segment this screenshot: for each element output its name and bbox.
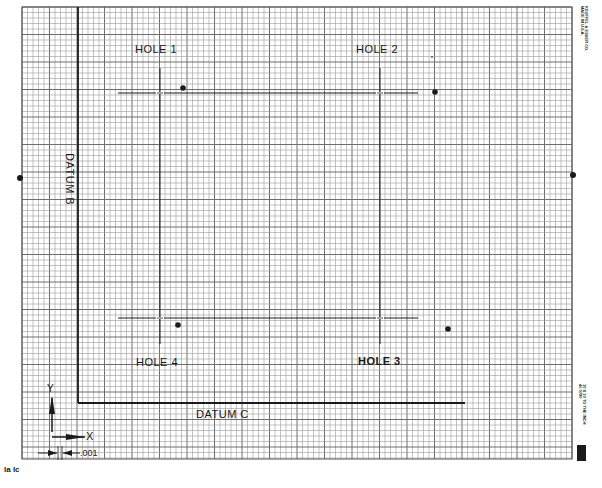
axis-key — [38, 396, 85, 460]
hole-2-label: HOLE 2 — [356, 44, 398, 55]
paper-catalog-number: 46 0780 — [577, 384, 581, 424]
grid-lines — [22, 7, 572, 459]
footer-marks: la lc — [4, 465, 20, 474]
hole-location-dot — [175, 322, 181, 328]
scale-arrow-right-icon — [63, 450, 72, 456]
graph-paper-diagram — [0, 0, 602, 488]
vendor-text-bottom: 10 X 10 TO THE INCH 46 0780 — [577, 384, 586, 424]
vendor-origin: MADE IN U.S.A. — [579, 6, 583, 51]
reference-dot — [570, 172, 576, 178]
hole-location-dot — [445, 326, 451, 332]
vendor-logo-icon — [577, 445, 586, 461]
hole-4-label: HOLE 4 — [136, 357, 178, 368]
hole-3-label: HOLE 3 — [358, 356, 401, 367]
x-axis-label: X — [86, 431, 94, 442]
scale-label: .001 — [80, 448, 98, 458]
hole-location-dot — [180, 85, 186, 91]
x-arrow-icon — [66, 434, 85, 440]
y-axis-label: Y — [47, 384, 54, 394]
stray-mark — [431, 56, 433, 58]
vendor-text-top: KEUFFEL & ESSER CO. MADE IN U.S.A. — [579, 6, 588, 51]
hole-location-dot — [432, 89, 438, 95]
datum-b-label: DATUM B — [64, 153, 75, 205]
datum-c-label: DATUM C — [196, 409, 249, 420]
reference-dot — [17, 175, 23, 181]
hole-1-label: HOLE 1 — [135, 44, 177, 55]
scale-arrow-left-icon — [48, 450, 57, 456]
hole-centerlines — [118, 68, 418, 344]
